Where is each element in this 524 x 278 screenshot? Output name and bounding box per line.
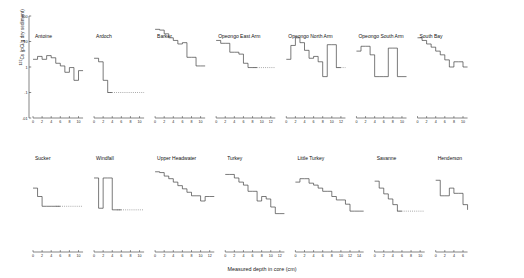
x-axis-label: Measured depth in core (cm) bbox=[0, 266, 524, 272]
y-axis-label-isotope: 137 bbox=[19, 60, 23, 66]
svg-text:4: 4 bbox=[453, 254, 455, 258]
svg-text:0: 0 bbox=[93, 254, 95, 258]
svg-text:2: 2 bbox=[163, 254, 165, 258]
panel-title: Savanne bbox=[377, 155, 397, 161]
panel-title: South Bay bbox=[420, 33, 444, 39]
svg-text:4: 4 bbox=[111, 120, 113, 124]
svg-text:6: 6 bbox=[120, 254, 122, 258]
svg-text:10: 10 bbox=[138, 120, 142, 124]
svg-text:8: 8 bbox=[331, 254, 333, 258]
svg-text:10: 10 bbox=[269, 254, 273, 258]
series-line bbox=[436, 180, 468, 210]
svg-text:0: 0 bbox=[294, 254, 296, 258]
svg-text:12: 12 bbox=[339, 120, 343, 124]
svg-text:2: 2 bbox=[426, 120, 428, 124]
svg-text:4: 4 bbox=[435, 120, 437, 124]
svg-text:8: 8 bbox=[252, 120, 254, 124]
svg-text:0: 0 bbox=[435, 254, 437, 258]
svg-text:10: 10 bbox=[260, 120, 264, 124]
svg-text:8: 8 bbox=[261, 254, 263, 258]
svg-text:6: 6 bbox=[462, 254, 464, 258]
svg-text:0: 0 bbox=[417, 120, 419, 124]
chart-canvas: .01.11101000246810Antoine0246810Ardoch02… bbox=[0, 0, 524, 278]
svg-text:2: 2 bbox=[233, 254, 235, 258]
series-line bbox=[356, 46, 406, 76]
figure-root: 137Cs (pCi/g dry sediment) Measured dept… bbox=[0, 0, 524, 278]
svg-text:10: 10 bbox=[77, 120, 81, 124]
svg-text:8: 8 bbox=[453, 120, 455, 124]
svg-text:6: 6 bbox=[383, 120, 385, 124]
panel-title: Windfall bbox=[96, 155, 114, 161]
svg-text:2: 2 bbox=[304, 254, 306, 258]
svg-text:14: 14 bbox=[357, 254, 361, 258]
svg-text:4: 4 bbox=[50, 120, 52, 124]
svg-text:4: 4 bbox=[172, 120, 174, 124]
svg-text:2: 2 bbox=[224, 120, 226, 124]
svg-text:.1: .1 bbox=[24, 91, 27, 95]
y-axis-label: 137Cs (pCi/g dry sediment) bbox=[19, 0, 26, 85]
svg-text:8: 8 bbox=[129, 120, 131, 124]
svg-text:10: 10 bbox=[418, 254, 422, 258]
svg-text:2: 2 bbox=[294, 120, 296, 124]
svg-text:10: 10 bbox=[138, 254, 142, 258]
series-line bbox=[286, 38, 341, 77]
svg-text:2: 2 bbox=[383, 254, 385, 258]
svg-text:0: 0 bbox=[32, 120, 34, 124]
panel-title: Little Turkey bbox=[297, 155, 324, 161]
svg-text:0: 0 bbox=[355, 120, 357, 124]
svg-text:0: 0 bbox=[93, 120, 95, 124]
panel-title: Antoine bbox=[35, 33, 52, 39]
series-line bbox=[375, 181, 402, 211]
svg-text:8: 8 bbox=[322, 120, 324, 124]
panel-title: Turkey bbox=[227, 155, 243, 161]
svg-text:4: 4 bbox=[50, 254, 52, 258]
svg-text:2: 2 bbox=[41, 120, 43, 124]
svg-text:8: 8 bbox=[392, 120, 394, 124]
svg-text:10: 10 bbox=[199, 120, 203, 124]
svg-text:12: 12 bbox=[278, 254, 282, 258]
svg-text:8: 8 bbox=[68, 254, 70, 258]
svg-text:12: 12 bbox=[348, 254, 352, 258]
panel-title: Henderson bbox=[438, 155, 463, 161]
panel-title: Opeongo East Arm bbox=[218, 33, 260, 39]
svg-text:6: 6 bbox=[120, 120, 122, 124]
svg-text:6: 6 bbox=[181, 254, 183, 258]
svg-text:8: 8 bbox=[410, 254, 412, 258]
svg-text:.01: .01 bbox=[22, 117, 27, 121]
series-line bbox=[33, 56, 83, 81]
svg-text:4: 4 bbox=[374, 120, 376, 124]
series-line bbox=[295, 179, 363, 211]
svg-text:10: 10 bbox=[339, 254, 343, 258]
svg-text:10: 10 bbox=[199, 254, 203, 258]
svg-text:0: 0 bbox=[32, 254, 34, 258]
svg-text:2: 2 bbox=[41, 254, 43, 258]
svg-text:0: 0 bbox=[374, 254, 376, 258]
svg-text:6: 6 bbox=[242, 120, 244, 124]
series-line bbox=[33, 188, 60, 206]
panel-title: Ardoch bbox=[96, 33, 112, 39]
panel-title: Opeongo South Arm bbox=[358, 33, 403, 39]
svg-text:10: 10 bbox=[330, 120, 334, 124]
svg-text:4: 4 bbox=[111, 254, 113, 258]
svg-text:2: 2 bbox=[163, 120, 165, 124]
svg-text:0: 0 bbox=[224, 254, 226, 258]
svg-text:12: 12 bbox=[269, 120, 273, 124]
svg-text:6: 6 bbox=[59, 120, 61, 124]
svg-text:2: 2 bbox=[102, 254, 104, 258]
panel-title: Sucker bbox=[35, 155, 51, 161]
svg-text:6: 6 bbox=[313, 120, 315, 124]
svg-text:0: 0 bbox=[285, 120, 287, 124]
svg-text:0: 0 bbox=[215, 120, 217, 124]
svg-text:0: 0 bbox=[154, 254, 156, 258]
svg-text:2: 2 bbox=[102, 120, 104, 124]
series-line bbox=[94, 58, 112, 92]
svg-text:6: 6 bbox=[181, 120, 183, 124]
series-line bbox=[418, 38, 468, 67]
svg-text:4: 4 bbox=[172, 254, 174, 258]
svg-text:6: 6 bbox=[444, 120, 446, 124]
svg-text:6: 6 bbox=[322, 254, 324, 258]
svg-text:10: 10 bbox=[400, 120, 404, 124]
svg-text:8: 8 bbox=[191, 254, 193, 258]
svg-text:2: 2 bbox=[365, 120, 367, 124]
svg-text:4: 4 bbox=[242, 254, 244, 258]
